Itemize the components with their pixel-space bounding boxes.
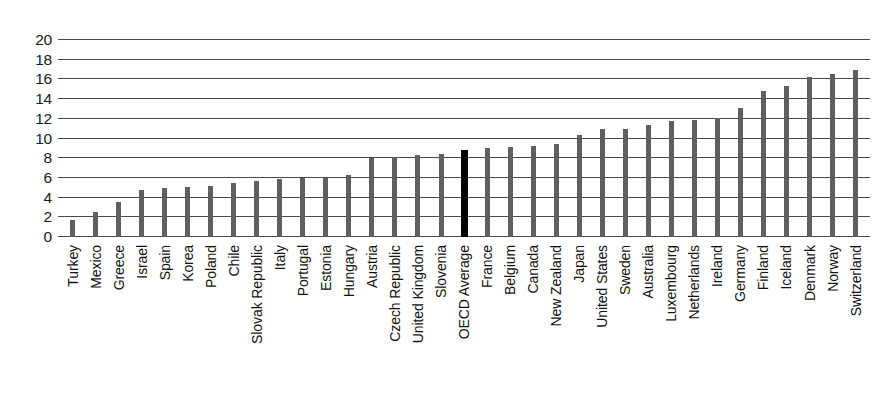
bar-slot <box>222 40 245 237</box>
x-axis-label: Mexico <box>89 245 103 289</box>
x-label-slot: United Kingdom <box>406 245 429 395</box>
x-label-slot: New Zealand <box>545 245 568 395</box>
bar <box>577 135 582 237</box>
x-label-slot: Iceland <box>775 245 798 395</box>
bar <box>692 120 697 237</box>
bar <box>116 202 121 237</box>
x-axis-label: Luxembourg <box>664 245 678 322</box>
bar <box>508 147 513 237</box>
bar <box>139 190 144 237</box>
x-axis-label: Chile <box>227 245 241 276</box>
x-label-slot: Austria <box>360 245 383 395</box>
bar <box>554 144 559 237</box>
x-label-slot: Norway <box>821 245 844 395</box>
x-axis-label: Netherlands <box>687 245 701 319</box>
x-axis-label: Portugal <box>296 245 310 296</box>
x-label-slot: Luxembourg <box>660 245 683 395</box>
bar <box>93 212 98 237</box>
bar-slot <box>84 40 107 237</box>
bar-slot <box>568 40 591 237</box>
bar <box>346 175 351 237</box>
x-axis-label: Switzerland <box>849 245 863 316</box>
x-axis-label: Austria <box>365 245 379 288</box>
y-axis-tick-6: 6 <box>20 170 52 186</box>
bar-slot <box>314 40 337 237</box>
x-axis-label: Canada <box>526 245 540 293</box>
x-label-slot: France <box>476 245 499 395</box>
x-label-slot: Hungary <box>337 245 360 395</box>
x-label-slot: Finland <box>752 245 775 395</box>
y-axis-tick-labels: 02468101214161820 <box>20 40 52 237</box>
bar-slot <box>591 40 614 237</box>
bar-slot <box>545 40 568 237</box>
bar <box>300 178 305 237</box>
x-axis-label: Spain <box>158 245 172 280</box>
bar-slot <box>752 40 775 237</box>
bar-highlight <box>461 150 468 237</box>
bar <box>600 129 605 237</box>
bar <box>738 108 743 237</box>
x-label-slot: Portugal <box>291 245 314 395</box>
bar-slot <box>176 40 199 237</box>
x-label-slot: Germany <box>729 245 752 395</box>
x-axis-label: Denmark <box>803 245 817 301</box>
bar <box>369 158 374 237</box>
x-axis-label: Estonia <box>319 245 333 291</box>
bar <box>392 157 397 237</box>
bar-slot <box>245 40 268 237</box>
x-label-slot: OECD Average <box>453 245 476 395</box>
plot-area <box>58 40 870 237</box>
bar-slot <box>406 40 429 237</box>
x-axis-label: Italy <box>273 245 287 270</box>
x-label-slot: Korea <box>176 245 199 395</box>
bar <box>715 118 720 237</box>
bar-slot <box>153 40 176 237</box>
x-axis-label: Sweden <box>618 245 632 295</box>
x-axis-label: Finland <box>756 245 770 290</box>
x-label-slot: Spain <box>153 245 176 395</box>
y-axis-tick-8: 8 <box>20 150 52 166</box>
x-label-slot: Israel <box>130 245 153 395</box>
bar-slot <box>337 40 360 237</box>
x-label-slot: United States <box>591 245 614 395</box>
x-label-slot: Denmark <box>798 245 821 395</box>
bar-slot <box>660 40 683 237</box>
x-label-slot: Australia <box>637 245 660 395</box>
bar <box>254 181 259 237</box>
bar-slot <box>268 40 291 237</box>
bar <box>807 77 812 237</box>
bar-slot <box>430 40 453 237</box>
x-axis-label: New Zealand <box>549 245 563 326</box>
y-axis-tick-12: 12 <box>20 111 52 127</box>
bar-slot <box>499 40 522 237</box>
bar-chart: 02468101214161820 TurkeyMexicoGreeceIsra… <box>0 0 877 398</box>
bar-slot <box>614 40 637 237</box>
x-label-slot: Sweden <box>614 245 637 395</box>
x-label-slot: Italy <box>268 245 291 395</box>
x-axis-label: Australia <box>641 245 655 299</box>
bar-slot <box>130 40 153 237</box>
x-axis-label: United Kingdom <box>411 245 425 343</box>
bar-slot <box>798 40 821 237</box>
bar <box>669 121 674 237</box>
x-label-slot: Canada <box>522 245 545 395</box>
x-axis-label: United States <box>595 245 609 328</box>
x-label-slot: Slovenia <box>430 245 453 395</box>
x-label-slot: Turkey <box>61 245 84 395</box>
bar-slot <box>61 40 84 237</box>
bar-slot <box>637 40 660 237</box>
x-axis-label: Korea <box>181 245 195 282</box>
x-axis-label: Israel <box>135 245 149 279</box>
bars-container <box>58 40 870 237</box>
bar <box>185 187 190 237</box>
x-label-slot: Greece <box>107 245 130 395</box>
y-axis-tick-18: 18 <box>20 52 52 68</box>
x-axis-category-labels: TurkeyMexicoGreeceIsraelSpainKoreaPoland… <box>58 245 870 395</box>
y-axis-tick-14: 14 <box>20 91 52 107</box>
bar-slot <box>775 40 798 237</box>
x-axis-label: OECD Average <box>457 245 471 339</box>
bar <box>70 220 75 237</box>
x-axis-label: Iceland <box>779 245 793 289</box>
y-axis-tick-4: 4 <box>20 190 52 206</box>
x-label-slot: Japan <box>568 245 591 395</box>
